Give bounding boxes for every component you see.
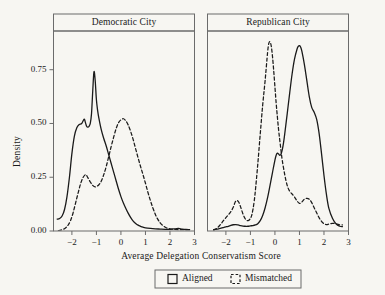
panel-frame <box>54 31 195 231</box>
density-curve-mismatched <box>58 119 189 231</box>
panel-strip-frame <box>208 14 349 31</box>
density-curve-aligned <box>214 46 343 230</box>
legend-swatch-aligned-icon <box>168 275 177 284</box>
panel-strip-frame <box>54 14 195 31</box>
density-curve-aligned <box>57 72 189 230</box>
x-tick-label: 3 <box>334 237 364 247</box>
density-plot-figure: Density 0.00 0.25 0.50 0.75 Democratic C… <box>0 0 385 295</box>
density-curve-mismatched <box>214 42 343 231</box>
plot-canvas <box>0 0 385 295</box>
x-tick-label: 3 <box>180 237 210 247</box>
legend-swatch-mismatched-icon <box>231 275 240 284</box>
